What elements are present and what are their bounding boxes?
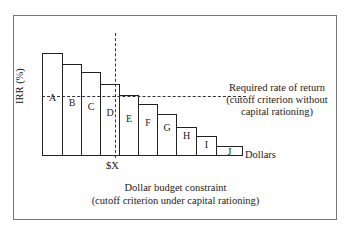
budget-marker-label: $X xyxy=(106,160,119,171)
bar-h: H xyxy=(176,127,197,156)
bar-g: G xyxy=(157,114,177,156)
bar-label: A xyxy=(43,92,62,103)
bar-e: E xyxy=(119,95,139,156)
bar-f: F xyxy=(138,104,158,156)
bar-i: I xyxy=(196,136,217,156)
budget-caption-line2: (cutoff criterion under capital rationin… xyxy=(0,195,351,206)
bar-d: D xyxy=(100,84,120,156)
bar-label: G xyxy=(158,122,176,133)
bar-label: I xyxy=(197,139,216,150)
rate-caption-line2: (cutoff criterion without xyxy=(218,94,336,105)
rate-caption-line3: capital rationing) xyxy=(218,106,336,117)
bar-b: B xyxy=(62,64,82,156)
bar-a: A xyxy=(42,53,63,156)
bar-label: E xyxy=(120,113,138,124)
bar-label: H xyxy=(177,130,196,141)
bar-label: D xyxy=(101,107,119,118)
bar-label: F xyxy=(139,117,157,128)
y-axis-label: IRR (%) xyxy=(14,68,25,104)
bar-label: B xyxy=(63,97,81,108)
bar-c: C xyxy=(81,72,101,156)
bar-label: C xyxy=(82,101,100,112)
budget-caption-line1: Dollar budget constraint xyxy=(0,182,351,193)
x-axis-baseline xyxy=(42,155,242,156)
rate-caption-line1: Required rate of return xyxy=(218,82,336,93)
required-rate-line xyxy=(42,96,246,97)
x-axis-label: Dollars xyxy=(245,149,276,160)
